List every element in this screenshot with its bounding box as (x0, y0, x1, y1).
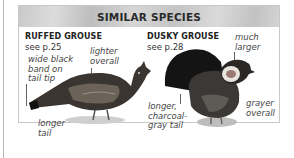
page-margin-rule (3, 0, 4, 158)
panel-title: SIMILAR SPECIES (97, 11, 201, 23)
ruffed-grouse-illustration (23, 58, 153, 128)
similar-species-panel: SIMILAR SPECIES RUFFED GROUSE see p.25 w… (18, 5, 280, 123)
note-line: tail (38, 129, 65, 139)
panel-header: SIMILAR SPECIES (19, 6, 279, 27)
species-reference-ruffed-grouse: see p.25 (25, 42, 62, 52)
species-name-dusky-grouse: DUSKY GROUSE (147, 32, 219, 41)
dusky-grouse-illustration (159, 46, 259, 131)
species-name-ruffed-grouse: RUFFED GROUSE (25, 32, 102, 41)
